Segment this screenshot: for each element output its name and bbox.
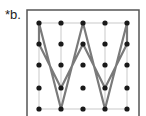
geoboard-diagram — [0, 0, 146, 116]
peg-dot — [58, 20, 63, 25]
peg-dot — [102, 106, 107, 111]
peg-dot — [102, 62, 107, 67]
peg-dot — [102, 20, 107, 25]
peg-dot — [124, 106, 129, 111]
peg-dot — [36, 62, 41, 67]
peg-dot — [124, 41, 129, 46]
peg-dot — [80, 106, 85, 111]
peg-dot — [58, 106, 63, 111]
peg-dot — [80, 41, 85, 46]
peg-dot — [102, 85, 107, 90]
peg-dot — [58, 41, 63, 46]
peg-dot — [36, 41, 41, 46]
peg-dot — [124, 85, 129, 90]
peg-dot — [36, 20, 41, 25]
peg-dot — [80, 85, 85, 90]
peg-dot — [80, 20, 85, 25]
peg-dot — [58, 62, 63, 67]
peg-dot — [36, 106, 41, 111]
peg-dot — [124, 20, 129, 25]
peg-dot — [36, 85, 41, 90]
peg-dot — [80, 62, 85, 67]
peg-dot — [102, 41, 107, 46]
peg-dot — [58, 85, 63, 90]
peg-dot — [124, 62, 129, 67]
